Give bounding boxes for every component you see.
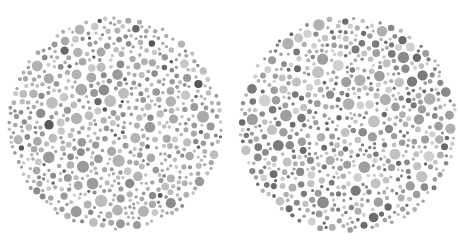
right-plate — [236, 13, 458, 237]
left-plate — [5, 14, 225, 234]
dot-pattern — [5, 14, 225, 234]
dot-pattern — [236, 13, 458, 237]
